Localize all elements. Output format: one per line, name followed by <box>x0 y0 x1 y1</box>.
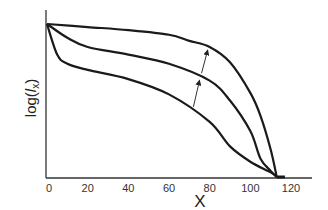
survivorship-chart: 020406080100120 X log(lx) <box>0 0 328 210</box>
arrow-annotation <box>193 80 199 107</box>
series-line-lower <box>47 24 277 177</box>
series-line-middle <box>47 24 277 177</box>
x-axis-label: X <box>194 192 205 210</box>
y-axis-label: log(lx) <box>22 79 41 117</box>
x-tick-label: 100 <box>241 182 259 194</box>
x-tick-label: 120 <box>282 182 300 194</box>
x-tick-label: 20 <box>82 182 94 194</box>
series-line-upper <box>47 24 277 177</box>
x-tick-label: 60 <box>163 182 175 194</box>
x-tick-label: 40 <box>122 182 134 194</box>
x-tick-labels: 020406080100120 <box>46 182 300 194</box>
series-group <box>47 24 285 177</box>
arrow-annotation <box>202 50 208 73</box>
x-tick-label: 0 <box>46 182 52 194</box>
